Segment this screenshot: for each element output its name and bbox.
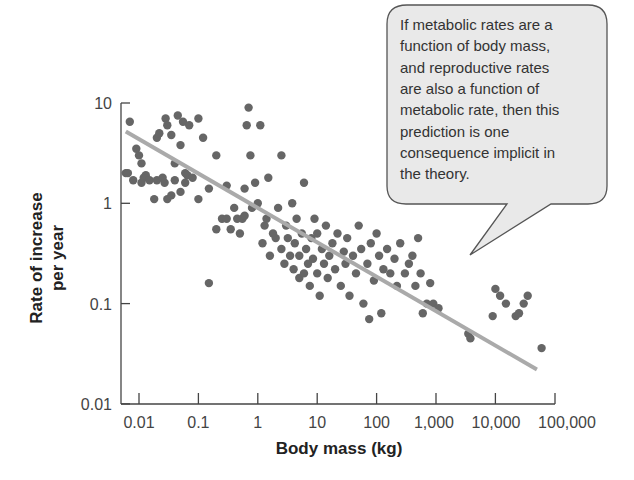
data-point [331,265,339,273]
data-point [466,334,474,342]
data-point [386,269,394,277]
data-point [266,252,274,260]
data-point [126,118,134,126]
data-point [300,179,308,187]
data-point [160,179,168,187]
data-point [328,239,336,247]
data-point [416,269,424,277]
data-point [135,151,143,159]
x-tick-label: 100,000 [538,414,596,431]
annotation-line: If metabolic rates are a [400,16,553,33]
annotation-line: function of body mass, [400,37,550,54]
data-point [256,121,264,129]
x-tick-label: 1 [253,414,262,431]
data-point [205,279,213,287]
data-point [345,292,353,300]
data-point [322,221,330,229]
y-axis-title: Rate of increaseper year [27,192,67,323]
data-point [289,265,297,273]
data-point [188,174,196,182]
data-point [337,282,345,290]
data-point [286,252,294,260]
annotation-line: and reproductive rates [400,59,549,76]
data-point [405,260,413,268]
data-point [230,204,238,212]
data-point [489,312,497,320]
data-point [306,282,314,290]
data-point [176,141,184,149]
data-point [419,309,427,317]
data-point [258,239,266,247]
data-point [212,151,220,159]
data-point [396,239,404,247]
data-point [365,315,373,323]
data-point [537,344,545,352]
data-point [124,169,132,177]
annotation-line: the theory. [400,165,470,182]
y-tick-label: 0.01 [81,396,112,413]
data-point [277,245,285,253]
data-point [295,252,303,260]
data-point [264,174,272,182]
data-point [320,260,328,268]
data-point [150,195,158,203]
data-point [515,309,523,317]
data-point [324,274,332,282]
data-point [383,245,391,253]
data-point [284,234,292,242]
data-point [243,121,251,129]
data-point [520,299,528,307]
scatter-chart: 1010.10.010.010.11101001,00010,000100,00… [0,0,634,480]
data-point [171,176,179,184]
data-point [401,269,409,277]
data-point [167,191,175,199]
x-tick-label: 10,000 [472,414,521,431]
data-point [372,229,380,237]
data-point [414,234,422,242]
annotation-line: metabolic rate, then this [400,101,559,118]
data-point [223,215,231,223]
data-point [313,229,321,237]
data-point [145,176,153,184]
data-point [274,204,282,212]
data-point [377,309,385,317]
data-point [355,221,363,229]
data-point [167,131,175,139]
data-point [390,255,398,263]
data-point [277,151,285,159]
data-point [313,269,321,277]
x-tick-label: 10 [308,414,326,431]
data-point [240,184,248,192]
data-point [292,215,300,223]
data-point [309,255,317,263]
data-point [349,252,357,260]
data-point [502,299,510,307]
x-tick-label: 0.01 [123,414,154,431]
data-point [411,282,419,290]
y-axis-title-line: Rate of increase [27,192,46,323]
data-point [367,239,375,247]
data-point [199,134,207,142]
data-point [137,159,145,167]
y-tick-label: 10 [94,95,112,112]
annotation-line: are also a function of [400,80,540,97]
data-point [194,195,202,203]
x-tick-label: 0.1 [187,414,209,431]
annotation-callout: If metabolic rates are afunction of body… [387,5,607,255]
data-point [155,129,163,137]
data-point [302,245,310,253]
data-point [227,225,235,233]
data-point [363,260,371,268]
annotation-line: prediction is one [400,123,509,140]
data-point [316,292,324,300]
data-point [359,299,367,307]
data-point [246,151,254,159]
data-point [272,234,280,242]
data-point [352,269,360,277]
data-point [194,114,202,122]
annotation-line: consequence implicit in [400,144,555,161]
data-point [496,292,504,300]
data-point [251,179,259,187]
y-axis-title-line: per year [48,225,67,292]
data-point [343,234,351,242]
